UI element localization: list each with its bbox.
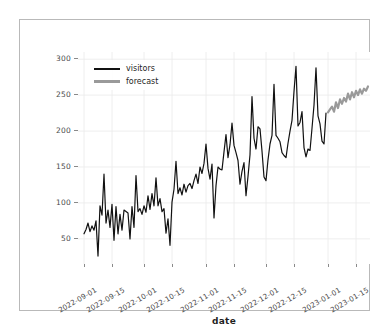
plot-area: visitors forecast: [78, 52, 370, 264]
chart-legend: visitors forecast: [90, 60, 162, 90]
y-axis-tick-150: 150: [56, 161, 78, 173]
legend-swatch-visitors-icon: [94, 68, 120, 70]
legend-label-forecast: forecast: [126, 77, 158, 86]
chart-screenshot: 50100150200250300 visitors forecast 2022…: [0, 0, 391, 329]
y-axis-tick-250: 250: [56, 89, 78, 101]
x-axis-title: date: [78, 316, 370, 326]
y-axis-tick-300: 300: [56, 53, 78, 65]
y-axis-tick-label: 200: [56, 126, 74, 135]
legend-item-visitors: visitors: [94, 62, 158, 75]
y-axis-tick-label: 100: [56, 198, 74, 207]
y-axis-tick-label: 250: [56, 90, 74, 99]
y-axis-tick-50: 50: [61, 233, 78, 245]
legend-label-visitors: visitors: [126, 64, 155, 73]
x-axis: 2022-09-012022-09-152022-10-012022-10-15…: [78, 264, 370, 314]
y-axis-tick-label: 300: [56, 54, 74, 63]
y-axis-tick-label: 50: [61, 234, 74, 243]
y-axis-tick-200: 200: [56, 125, 78, 137]
figure-frame: 50100150200250300 visitors forecast 2022…: [19, 19, 370, 311]
y-axis-tick-100: 100: [56, 197, 78, 209]
legend-item-forecast: forecast: [94, 75, 158, 88]
legend-swatch-forecast-icon: [94, 80, 120, 83]
y-axis: 50100150200250300: [20, 52, 78, 264]
y-axis-tick-label: 150: [56, 162, 74, 171]
